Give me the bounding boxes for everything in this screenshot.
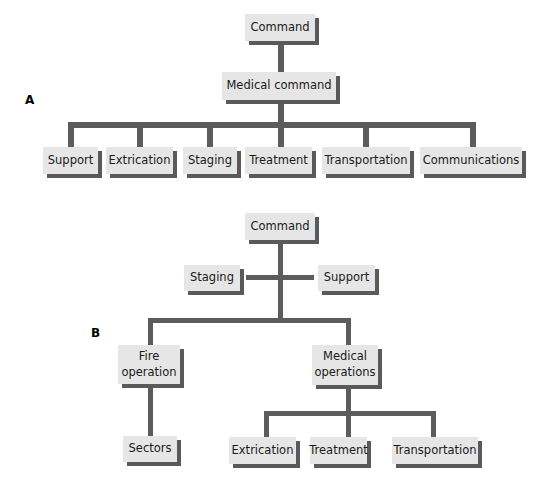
node-b-medical-operations-line1: Medical [323, 349, 367, 365]
connector-a-drop [207, 122, 213, 147]
node-b-medical-operations: Medical operations [312, 345, 378, 385]
node-a-staging: Staging [183, 147, 237, 174]
connector-b-medical-down [346, 389, 351, 413]
panel-a-label: A [25, 93, 34, 107]
connector-b-trunk [278, 240, 283, 322]
node-b-fire-operation-line2: operation [121, 365, 176, 381]
node-b-command: Command [245, 213, 315, 240]
node-b-staging: Staging [184, 265, 240, 291]
node-b-sectors: Sectors [123, 436, 177, 462]
connector-a-drop [68, 122, 74, 147]
node-b-fire-operation-line1: Fire [139, 349, 160, 365]
node-b-treatment: Treatment [310, 437, 367, 464]
connector-b-medical-drop [346, 318, 351, 345]
connector-b-branch-bar [148, 318, 351, 323]
node-a-extrication: Extrication [106, 147, 173, 174]
connector-a-drop [363, 122, 369, 147]
node-b-medical-operations-line2: operations [314, 365, 375, 381]
connector-b-staff-bar [246, 275, 314, 280]
connector-a-hbar [68, 122, 476, 128]
node-a-medical-command: Medical command [222, 72, 336, 100]
node-a-command: Command [245, 14, 315, 41]
connector-a-root [278, 44, 284, 72]
connector-b-drop [346, 411, 351, 437]
connector-b-drop [264, 411, 269, 437]
connector-a-drop [137, 122, 143, 147]
connector-a-drop [470, 122, 476, 147]
connector-b-drop [431, 411, 436, 437]
panel-b-label: B [91, 326, 100, 340]
connector-a-mid [278, 104, 284, 124]
connector-a-drop [278, 122, 284, 147]
connector-b-fire-drop [148, 318, 153, 345]
node-b-transportation: Transportation [392, 437, 478, 464]
node-b-fire-operation: Fire operation [118, 345, 180, 384]
node-a-treatment: Treatment [245, 147, 312, 174]
node-a-communications: Communications [420, 147, 522, 174]
node-a-transportation: Transportation [322, 147, 410, 174]
connector-b-sectors-drop [148, 387, 153, 436]
node-a-support: Support [43, 147, 98, 174]
node-b-support: Support [318, 265, 375, 291]
node-b-extrication: Extrication [229, 437, 296, 464]
